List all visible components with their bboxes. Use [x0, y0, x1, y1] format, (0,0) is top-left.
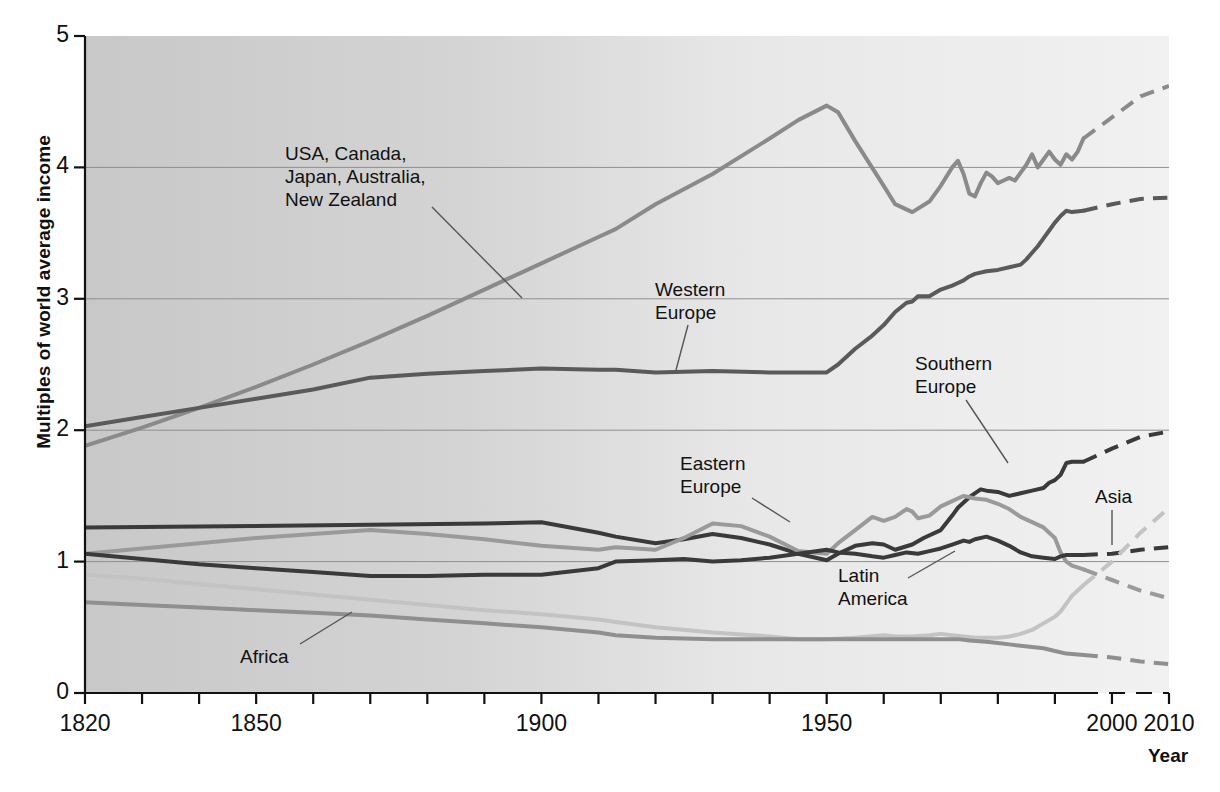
y-tick-label: 0: [27, 678, 69, 705]
annotation-asia: Asia: [1095, 485, 1132, 508]
annotation-africa: Africa: [240, 645, 289, 668]
plot-background: [85, 36, 1169, 693]
x-tick-label: 1900: [486, 710, 596, 737]
annotation-western-europe: Western Europe: [655, 278, 725, 324]
x-tick-label: 1950: [772, 710, 882, 737]
y-tick-label: 1: [27, 547, 69, 574]
annotation-latin-america: Latin America: [838, 564, 908, 610]
plot-area: [0, 0, 1220, 792]
income-convergence-chart: Multiples of world average income Year 0…: [0, 0, 1220, 792]
annotation-southern-europe: Southern Europe: [915, 352, 992, 398]
x-tick-label: 1820: [30, 710, 140, 737]
x-tick-label: 2010: [1114, 710, 1220, 737]
y-tick-label: 2: [27, 415, 69, 442]
annotation-eastern-europe: Eastern Europe: [680, 452, 745, 498]
annotation-usa-group: USA, Canada, Japan, Australia, New Zeala…: [285, 142, 425, 211]
y-tick-label: 4: [27, 152, 69, 179]
y-tick-label: 5: [27, 21, 69, 48]
y-tick-label: 3: [27, 284, 69, 311]
x-tick-label: 1850: [201, 710, 311, 737]
